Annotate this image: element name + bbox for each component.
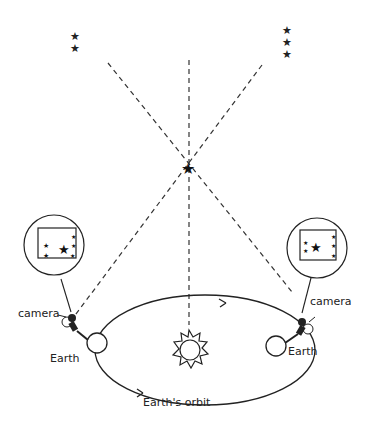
camera-left-icon: [62, 314, 88, 340]
sun-icon: [173, 330, 208, 368]
nearby-star-icon: ★: [181, 159, 195, 178]
orbit-arrow-top-icon: [219, 299, 226, 307]
svg-text:★: ★: [282, 48, 292, 61]
svg-text:★: ★: [331, 252, 336, 259]
svg-text:★: ★: [71, 233, 76, 240]
camera-right-pointer-icon: [309, 317, 315, 322]
earth-right-icon: [266, 336, 286, 356]
svg-text:★: ★: [310, 240, 322, 255]
svg-text:★: ★: [70, 42, 80, 55]
photo-view-left: ★ ★ ★ ★ ★ ★: [24, 215, 84, 312]
svg-text:★: ★: [43, 252, 49, 260]
sight-lines: [73, 60, 292, 325]
earth-left-icon: [87, 333, 107, 353]
parallax-diagram: ★ ★ ★ ★ ★ ★: [0, 0, 372, 435]
distant-stars-right-icon: ★ ★ ★: [282, 24, 292, 61]
svg-text:★: ★: [70, 252, 75, 259]
svg-text:★: ★: [303, 239, 308, 246]
distant-stars-left-icon: ★ ★: [70, 30, 80, 55]
svg-text:★: ★: [331, 242, 336, 249]
svg-text:★: ★: [331, 233, 336, 240]
earth-right-label: Earth: [288, 345, 318, 358]
earth-left-label: Earth: [50, 352, 80, 365]
svg-text:★: ★: [58, 242, 70, 257]
orbit-label: Earth's orbit: [143, 396, 210, 409]
svg-text:★: ★: [303, 247, 308, 254]
svg-text:★: ★: [43, 242, 49, 250]
camera-right-label: camera: [310, 295, 352, 308]
camera-left-label: camera: [18, 307, 60, 320]
svg-text:★: ★: [71, 242, 76, 249]
